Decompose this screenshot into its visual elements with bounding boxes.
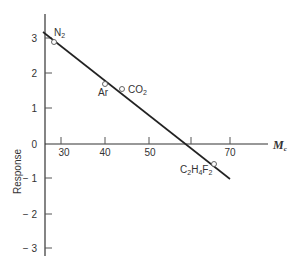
svg-text:70: 70 [224,147,236,158]
x-axis-title: Mc [272,138,287,153]
svg-text:0: 0 [31,139,37,150]
label-ar: Ar [98,87,109,98]
y-tick-labels: 3 2 1 0 − 1 − 2 − 3 [23,33,38,254]
svg-text:1: 1 [31,103,37,114]
svg-text:40: 40 [99,147,111,158]
y-ticks [45,38,52,248]
svg-text:3: 3 [31,33,37,44]
svg-text:− 2: − 2 [23,209,38,220]
point-co2 [120,87,125,92]
point-c2h4f2 [212,162,217,167]
svg-text:50: 50 [144,147,156,158]
point-ar [103,82,108,87]
svg-text:− 1: − 1 [23,173,38,184]
point-n2 [52,40,57,45]
label-n2: N2 [54,27,65,39]
label-co2: CO2 [128,84,147,96]
y-axis-title: Response [12,149,23,194]
chart: 3 2 1 0 − 1 − 2 − 3 30 40 50 70 Response… [0,0,302,265]
label-c2h4f2: C2H4F2 [180,164,212,176]
fit-line [43,32,230,179]
svg-text:30: 30 [58,147,70,158]
x-ticks [61,137,230,144]
svg-text:2: 2 [31,68,37,79]
x-tick-labels: 30 40 50 70 [58,147,236,158]
svg-text:− 3: − 3 [23,243,38,254]
